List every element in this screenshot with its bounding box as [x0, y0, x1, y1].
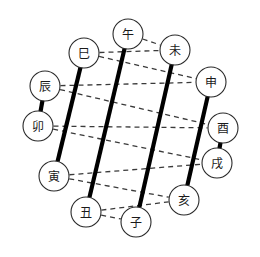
branch-node-shen[interactable]: 申	[196, 67, 226, 97]
node-label-you: 酉	[217, 122, 229, 136]
branch-node-you[interactable]: 酉	[208, 113, 238, 143]
dashed-edge-si-wei	[99, 51, 159, 53]
dashed-edge-mao-xu	[53, 129, 202, 160]
dashed-edge-yin-hai	[69, 179, 169, 197]
solid-edge-wei-zi	[139, 64, 172, 209]
node-label-shen: 申	[205, 76, 217, 90]
branch-node-wei[interactable]: 未	[160, 35, 190, 65]
node-label-chou: 丑	[80, 206, 92, 220]
node-label-si: 巳	[78, 47, 90, 61]
branch-node-yin[interactable]: 寅	[39, 161, 69, 191]
node-label-chen: 辰	[39, 80, 51, 94]
solid-edge-chen-mao	[40, 100, 42, 112]
solid-edge-shen-hai	[187, 96, 208, 187]
dashed-edge-chen-shen	[60, 82, 195, 85]
branch-node-mao[interactable]: 卯	[23, 111, 53, 141]
dashed-edge-wu-wei	[143, 39, 161, 45]
node-label-hai: 亥	[178, 194, 190, 208]
branch-node-zi[interactable]: 子	[121, 207, 151, 237]
branches-diagram-svg: 午未巳申辰酉卯戌寅亥丑子	[0, 0, 260, 257]
diagram-canvas: 午未巳申辰酉卯戌寅亥丑子	[0, 0, 260, 257]
node-label-xu: 戌	[211, 157, 223, 171]
branch-node-si[interactable]: 巳	[69, 38, 99, 68]
node-label-yin: 寅	[48, 169, 60, 184]
dashed-edge-chen-you	[60, 90, 208, 125]
node-label-wu: 午	[122, 28, 134, 42]
node-label-zi: 子	[130, 216, 142, 230]
node-label-wei: 未	[169, 44, 181, 58]
dashed-edge-chou-zi	[101, 215, 121, 219]
node-label-mao: 卯	[32, 120, 44, 134]
solid-edge-si-yin	[57, 67, 80, 163]
dashed-edge-mao-you	[53, 126, 207, 128]
solid-edge-layer	[40, 48, 220, 209]
dashed-edge-yin-xu	[69, 164, 201, 175]
branch-node-chou[interactable]: 丑	[71, 197, 101, 227]
branch-node-xu[interactable]: 戌	[202, 148, 232, 178]
solid-edge-wu-chou	[89, 48, 125, 199]
branch-node-hai[interactable]: 亥	[169, 185, 199, 215]
branch-node-chen[interactable]: 辰	[30, 71, 60, 101]
branch-node-wu[interactable]: 午	[113, 19, 143, 49]
